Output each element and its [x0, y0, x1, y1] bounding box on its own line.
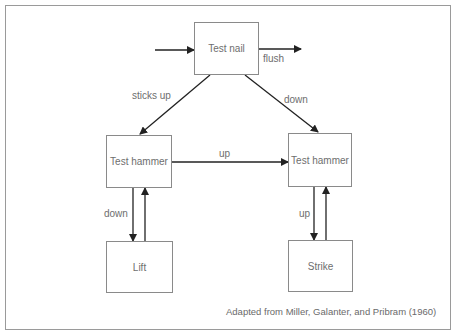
node-label: Strike — [308, 261, 334, 272]
node-label: Test hammer — [291, 155, 349, 166]
node-lift: Lift — [106, 241, 173, 293]
node-strike: Strike — [288, 240, 353, 292]
node-label: Lift — [133, 262, 146, 273]
edge-label-down-lift: down — [104, 209, 128, 219]
sticks-up-arrow — [140, 75, 210, 134]
edge-label-sticks-up: sticks up — [132, 91, 171, 101]
node-test-hammer-left: Test hammer — [106, 135, 172, 188]
edge-label-up-horizontal: up — [219, 149, 230, 159]
attribution-caption: Adapted from Miller, Galanter, and Pribr… — [226, 307, 436, 317]
edge-label-down-diagonal: down — [284, 95, 308, 105]
node-test-hammer-right: Test hammer — [288, 133, 352, 187]
node-label: Test nail — [208, 43, 245, 54]
edge-label-flush: flush — [263, 54, 284, 64]
edge-label-up-strike: up — [299, 209, 310, 219]
node-test-nail: Test nail — [194, 22, 259, 75]
node-label: Test hammer — [110, 156, 168, 167]
